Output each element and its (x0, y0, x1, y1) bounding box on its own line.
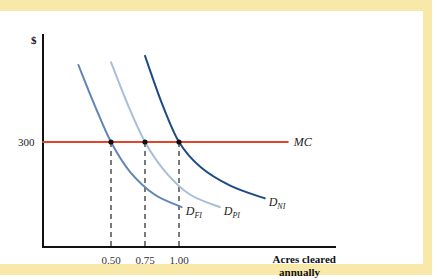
series-label-mc: MC (293, 135, 313, 149)
curves (43, 56, 288, 207)
frame-top-band (0, 0, 432, 11)
curve-d-fi (78, 65, 181, 207)
equilibrium-point-d-fi (108, 139, 113, 144)
curve-d-ni (145, 56, 265, 198)
x-axis-label-line2: annually (279, 266, 320, 278)
curve-d-pi (111, 62, 220, 207)
equilibrium-point-d-ni (176, 139, 181, 144)
series-labels: DFIDPIDNIMC (185, 135, 313, 220)
x-tick-label: 0.75 (135, 254, 155, 266)
x-tick-labels: 0.500.751.00 (101, 254, 189, 266)
chart-figure: $ 300 0.500.751.00 DFIDPIDNIMC Acres cle… (0, 0, 439, 280)
y-axis-label: $ (31, 34, 37, 46)
x-tick-label: 0.50 (101, 254, 121, 266)
plot-area: $ 300 0.500.751.00 DFIDPIDNIMC Acres cle… (18, 34, 336, 278)
x-axis-label-line1: Acres cleared (273, 253, 336, 265)
y-tick-label: 300 (18, 136, 35, 148)
series-label-d-fi: DFI (185, 204, 203, 220)
equilibrium-point-d-pi (142, 139, 147, 144)
series-label-d-ni: DNI (268, 195, 286, 211)
frame-right-band (423, 0, 432, 275)
series-label-d-pi: DPI (223, 204, 241, 220)
frame-bottom-band (0, 264, 432, 275)
x-tick-label: 1.00 (169, 254, 189, 266)
